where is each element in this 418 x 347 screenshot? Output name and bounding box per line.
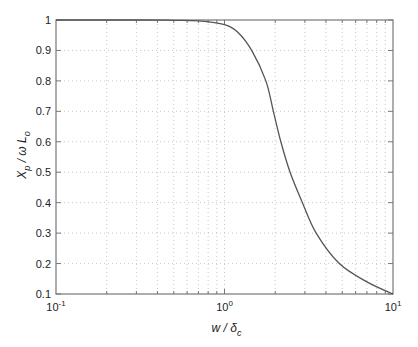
y-tick-label: 0.8 <box>36 75 51 87</box>
y-tick-label: 0.9 <box>36 44 51 56</box>
line-chart: 0.10.20.30.40.50.60.70.80.9110-1100101w … <box>0 0 418 347</box>
x-tick-label: 101 <box>385 299 402 313</box>
x-axis-label: w / δc <box>212 321 242 338</box>
y-tick-label: 0.7 <box>36 105 51 117</box>
y-tick-label: 0.5 <box>36 166 51 178</box>
x-tick-label: 10-1 <box>46 299 66 313</box>
y-tick-label: 1 <box>45 14 51 26</box>
y-tick-label: 0.6 <box>36 136 51 148</box>
y-tick-label: 0.2 <box>36 258 51 270</box>
y-axis-label: Xp / ω Lo <box>15 131 32 179</box>
y-tick-label: 0.1 <box>36 288 51 300</box>
x-tick-label: 100 <box>216 299 233 313</box>
y-tick-label: 0.4 <box>36 197 51 209</box>
y-tick-label: 0.3 <box>36 227 51 239</box>
